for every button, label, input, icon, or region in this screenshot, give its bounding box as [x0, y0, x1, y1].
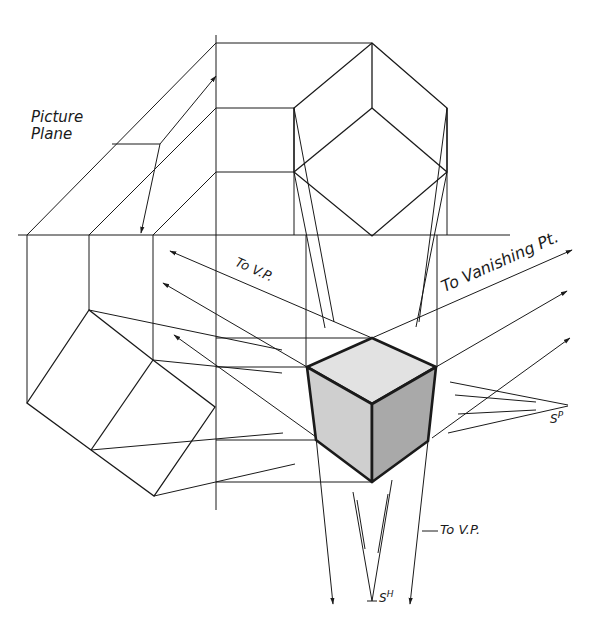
- picture-plane-label: Picture Plane: [31, 109, 83, 143]
- construction-lines: [18, 35, 572, 604]
- top-view-cube: [294, 43, 447, 236]
- sp-letter: S: [550, 412, 558, 426]
- picture-plane-label-line2: Plane: [31, 126, 83, 143]
- station-point-plan-label: SP: [550, 410, 563, 426]
- station-point-elevation-label: SH: [379, 589, 393, 605]
- side-elevation-cube: [27, 310, 215, 496]
- sp-superscript: P: [558, 410, 563, 420]
- to-vp-label-lower: To V.P.: [440, 522, 480, 537]
- sh-letter: S: [379, 591, 387, 605]
- perspective-cube: [307, 338, 436, 482]
- picture-plane-label-line1: Picture: [31, 109, 83, 126]
- perspective-diagram: [0, 0, 597, 618]
- sh-superscript: H: [387, 589, 394, 599]
